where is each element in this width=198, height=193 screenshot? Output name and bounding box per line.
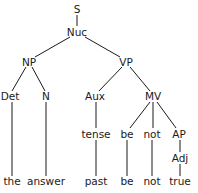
node-nuc: Nuc — [67, 26, 88, 38]
edge-vp-aux — [99, 67, 122, 91]
edge-np-det — [12, 67, 26, 91]
node-np: NP — [22, 56, 36, 68]
leaf-true: true — [169, 175, 191, 187]
leaf-past: past — [85, 175, 108, 187]
node-vp: VP — [119, 56, 133, 68]
node-mv: MV — [145, 90, 162, 102]
node-adj: Adj — [172, 152, 189, 164]
node-aux: Aux — [85, 90, 105, 102]
edge-nuc-np — [35, 37, 70, 57]
edge-nuc-vp — [85, 37, 120, 57]
node-tense: tense — [81, 128, 110, 140]
node-not: not — [143, 128, 160, 140]
edge-np-n — [32, 67, 45, 91]
syntax-tree-diagram: S Nuc NP VP Det N Aux MV tense be not AP… — [0, 0, 198, 193]
leaf-the: the — [3, 175, 20, 187]
leaf-not: not — [143, 175, 160, 187]
node-det: Det — [1, 90, 20, 102]
node-s: S — [74, 3, 81, 15]
edge-mv-be — [130, 102, 150, 128]
edge-vp-mv — [130, 67, 150, 91]
leaf-be: be — [120, 175, 133, 187]
leaf-answer: answer — [27, 175, 66, 187]
edge-mv-ap — [157, 102, 176, 128]
node-n: N — [42, 90, 50, 102]
node-be: be — [120, 128, 133, 140]
node-ap: AP — [172, 128, 186, 140]
